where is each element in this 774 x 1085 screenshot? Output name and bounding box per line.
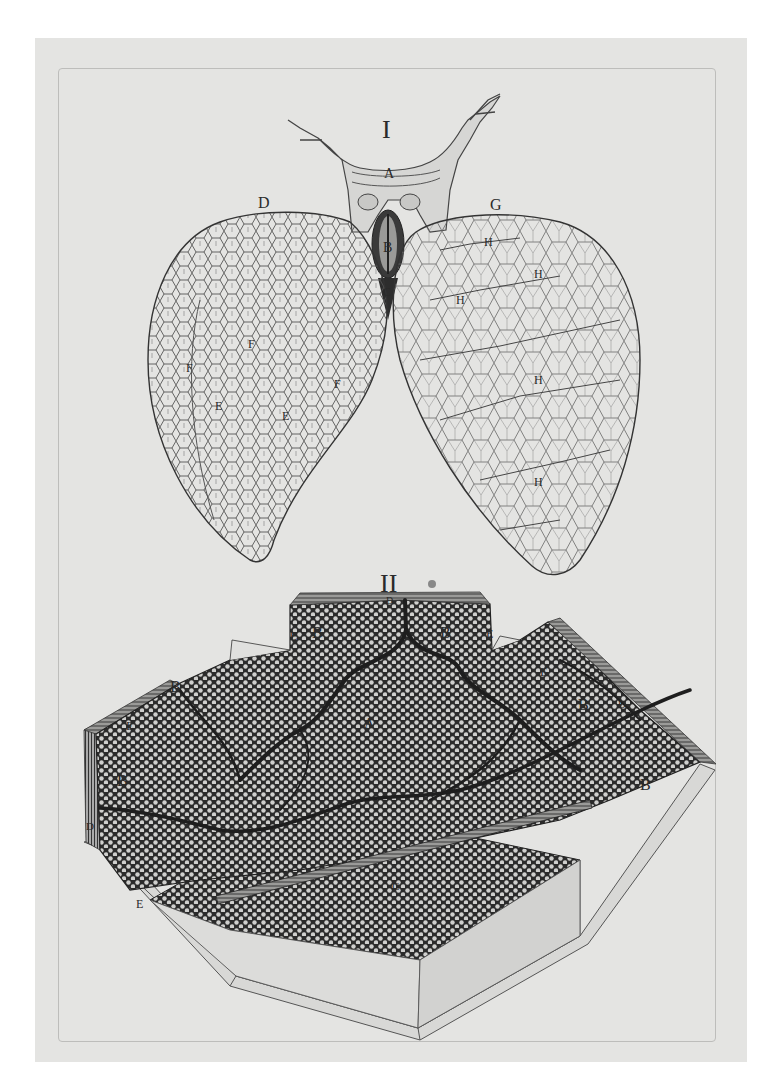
label-E: E xyxy=(215,399,222,413)
label-D: D xyxy=(86,820,94,832)
label-H: H xyxy=(484,235,493,249)
label-A: A xyxy=(364,716,375,731)
label-D: D xyxy=(258,194,270,211)
label-E: E xyxy=(290,629,297,643)
label-H: H xyxy=(534,267,543,281)
label-E: E xyxy=(126,719,133,733)
label-E: E xyxy=(282,409,289,423)
label-E: E xyxy=(136,897,143,911)
figure-1-numeral: I xyxy=(382,115,391,144)
right-lung xyxy=(393,215,640,575)
label-B: B xyxy=(640,776,651,793)
label-H: H xyxy=(534,373,543,387)
label-G: G xyxy=(490,196,502,213)
figure-2-numeral: II xyxy=(380,569,397,598)
label-F: F xyxy=(186,361,193,375)
left-lung xyxy=(148,212,387,562)
label-H: H xyxy=(456,293,465,307)
label-B: B xyxy=(117,772,128,789)
label-C: C xyxy=(383,285,391,299)
label-F: F xyxy=(248,337,255,351)
label-F: F xyxy=(334,377,341,391)
label-B: B xyxy=(383,240,392,255)
label-E: E xyxy=(486,627,493,641)
label-B: B xyxy=(440,624,451,641)
engraving: I A B C D G F F F E E H H H H H xyxy=(0,0,774,1085)
label-E: E xyxy=(540,665,547,679)
label-D: D xyxy=(386,595,393,606)
ink-spot xyxy=(428,580,436,588)
label-B: B xyxy=(312,624,323,641)
label-H: H xyxy=(534,475,543,489)
label-B: B xyxy=(170,678,181,695)
label-C: C xyxy=(392,880,399,892)
figure-2-tissue-block xyxy=(84,592,716,1040)
label-D: D xyxy=(618,698,626,710)
label-A: A xyxy=(384,166,395,181)
label-B: B xyxy=(578,696,589,713)
